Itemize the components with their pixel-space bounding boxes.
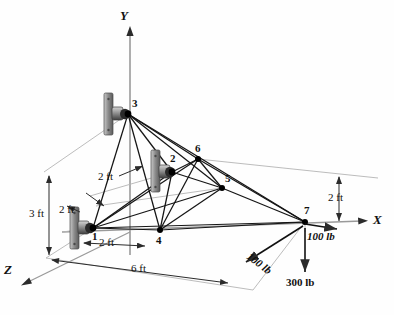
node-label-7: 7 [304, 204, 310, 216]
axis-y-arrow [126, 26, 133, 36]
truss-node-4[interactable] [157, 227, 163, 233]
support-bolt-1b [73, 243, 75, 245]
force-label-x-100lb: 100 lb [307, 230, 335, 242]
node-label-5: 5 [225, 172, 231, 184]
support-bolt-3b [107, 129, 109, 131]
dim-label-2ft-span: 2 ft [99, 236, 114, 248]
dim-label-6ft: 6 ft [131, 262, 146, 274]
truss-node-3[interactable] [125, 111, 132, 118]
node-label-3: 3 [132, 97, 138, 109]
support-bolt-2b [154, 186, 156, 188]
force-arrow-x [305, 224, 337, 229]
truss-member-5-7 [222, 188, 305, 222]
figure-canvas: Y X Z 1 2 3 4 5 6 7 3 ft 2 ft 2 ft 2 ft … [0, 0, 394, 315]
support-bolt-2a [154, 155, 156, 157]
truss-node-6[interactable] [195, 156, 201, 162]
dim-2ft-leader-upper [119, 166, 143, 176]
truss-node-5[interactable] [219, 185, 225, 191]
proj-node3-left [44, 114, 128, 172]
node-label-2: 2 [170, 152, 176, 164]
truss-node-2[interactable] [169, 169, 176, 176]
node-label-1: 1 [92, 230, 98, 242]
dim-label-3ft: 3 ft [29, 207, 44, 219]
axis-label-x: X [373, 212, 382, 228]
dim-label-2ft-upper: 2 ft [98, 170, 113, 182]
axis-x-arrow [358, 218, 368, 225]
axis-z-arrow [21, 278, 32, 286]
dim-label-2ft-lower: 2 ft [59, 203, 74, 215]
truss-nodes-group [90, 111, 308, 233]
dim-2ft-span-line [84, 243, 145, 246]
node-label-4: 4 [156, 234, 162, 246]
truss-member-4-5 [160, 188, 222, 230]
truss-diagram-svg [0, 0, 394, 315]
support-bolt-3a [107, 98, 109, 100]
truss-member-2-5 [172, 172, 222, 188]
dim-label-2ft-right: 2 ft [328, 191, 343, 203]
axis-label-y: Y [120, 8, 128, 24]
node-label-6: 6 [195, 142, 201, 154]
truss-member-3-5 [128, 114, 222, 188]
force-label-y-300lb: 300 lb [286, 276, 314, 288]
truss-members-group [93, 114, 305, 230]
axis-label-z: Z [4, 262, 12, 278]
